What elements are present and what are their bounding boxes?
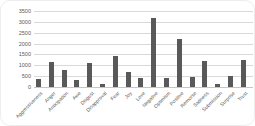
bar-surprise <box>228 76 233 87</box>
y-tick-label-500: 500 <box>1 73 31 79</box>
bar-disapproval <box>100 84 105 87</box>
x-tick-label-fear: Fear <box>109 90 121 102</box>
gridline-500 <box>34 76 253 77</box>
bar-remorse <box>190 77 195 87</box>
bar-love <box>138 78 143 87</box>
y-tick-label-1500: 1500 <box>1 51 31 57</box>
bar-chart: 0500100015002000250030003500 Aggressiven… <box>0 0 255 126</box>
y-tick-label-2000: 2000 <box>1 41 31 47</box>
bar-joy <box>126 72 131 87</box>
bar-submission <box>215 84 220 87</box>
bar-optimism <box>164 78 169 87</box>
gridline-1500 <box>34 54 253 55</box>
y-tick-label-1000: 1000 <box>1 62 31 68</box>
gridline-2500 <box>34 33 253 34</box>
bar-disgust <box>87 63 92 87</box>
x-tick-label-joy: Joy <box>124 90 134 100</box>
bar-positive <box>177 39 182 87</box>
gridline-3000 <box>34 22 253 23</box>
bar-anticipation <box>62 70 67 87</box>
gridline-2000 <box>34 44 253 45</box>
bar-aggressiveness <box>36 79 41 87</box>
y-tick-label-3500: 3500 <box>1 8 31 14</box>
gridline-1000 <box>34 65 253 66</box>
y-tick-label-2500: 2500 <box>1 30 31 36</box>
x-tick-label-trust: Trust <box>236 90 248 102</box>
x-tick-label-aggressiveness: Aggressiveness <box>15 90 44 119</box>
bar-anger <box>49 62 54 87</box>
y-tick-label-0: 0 <box>1 84 31 90</box>
bar-trust <box>241 60 246 87</box>
bar-negative <box>151 18 156 87</box>
gridline-3500 <box>34 11 253 12</box>
bar-fear <box>113 56 118 87</box>
y-tick-label-3000: 3000 <box>1 19 31 25</box>
bar-sadness <box>202 61 207 87</box>
bar-awe <box>74 80 79 87</box>
gridline-0 <box>34 87 253 88</box>
